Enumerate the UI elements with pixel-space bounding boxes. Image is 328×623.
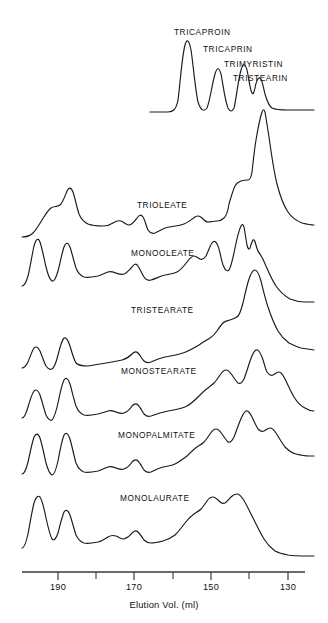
chromatogram-figure: TRICAPROIN TRICAPRIN TRIMYRISTIN TRISTEA… [0,0,328,623]
trace-monolaurate [22,494,314,556]
label-trioleate: TRIOLEATE [137,200,187,210]
label-tristearate: TRISTEARATE [131,305,194,315]
label-tricaproin: TRICAPROIN [174,27,231,37]
label-tricaprin: TRICAPRIN [203,44,253,54]
x-axis: 190 170 150 130 Elution Vol. (ml) [22,572,305,610]
label-monopalmitate: MONOPALMITATE [118,430,195,440]
trace-monopalmitate [22,411,314,475]
tick-label-150: 150 [203,582,219,592]
trace-trioleate [22,110,314,237]
tick-label-170: 170 [126,582,142,592]
trace-tristearate [22,270,314,369]
label-monolaurate: MONOLAURATE [120,493,190,503]
label-tristearin: TRISTEARIN [233,73,288,83]
x-axis-title: Elution Vol. (ml) [129,599,198,610]
trace-monooleate [22,225,314,302]
label-trimyristin: TRIMYRISTIN [224,59,283,69]
label-monooleate: MONOOLEATE [131,248,194,258]
tick-label-130: 130 [280,582,296,592]
tick-label-190: 190 [50,582,66,592]
label-monostearate: MONOSTEARATE [121,366,197,376]
trace-monostearate [22,350,314,420]
chromatogram-svg: TRICAPROIN TRICAPRIN TRIMYRISTIN TRISTEA… [0,0,328,623]
